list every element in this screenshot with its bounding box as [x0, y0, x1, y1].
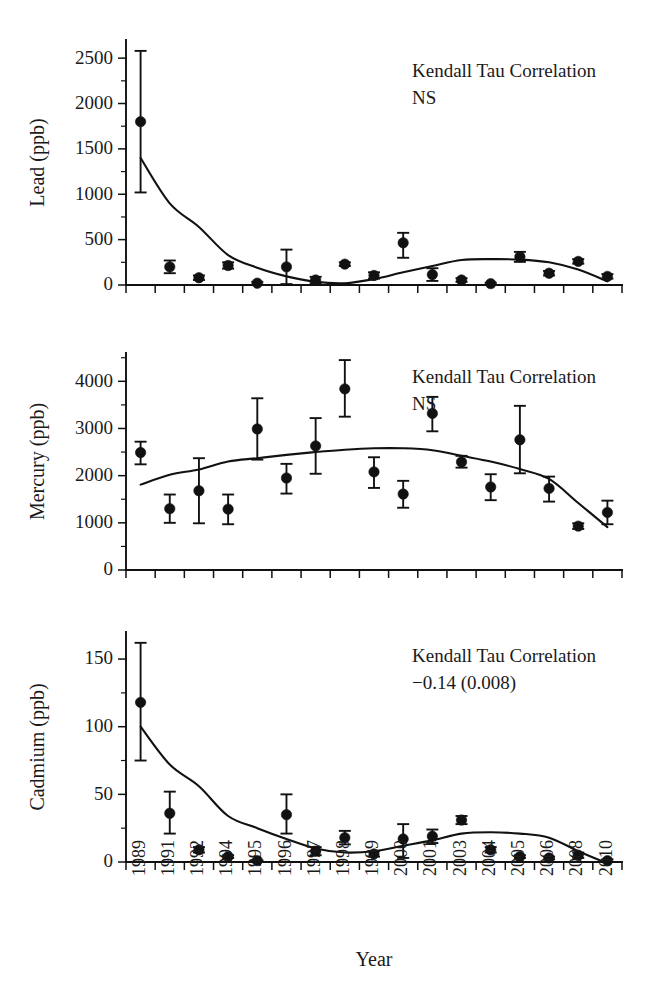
marker-filled-circle	[194, 486, 204, 496]
marker-filled-circle	[544, 483, 554, 493]
panel-lead: 05001000150020002500Lead (ppb)Kendall Ta…	[26, 40, 622, 294]
data-point-mercury	[601, 501, 613, 525]
xtick-label: 1996	[275, 840, 295, 876]
chart-canvas: 05001000150020002500Lead (ppb)Kendall Ta…	[0, 0, 666, 988]
data-point-lead	[485, 278, 497, 288]
marker-filled-circle	[194, 273, 204, 283]
marker-filled-circle	[165, 503, 175, 513]
marker-filled-circle	[602, 271, 612, 281]
marker-filled-circle	[135, 697, 145, 707]
annotation-line2-cadmium: −0.14 (0.008)	[412, 672, 516, 694]
data-point-mercury	[514, 406, 526, 473]
xtick-label: 1999	[362, 840, 382, 876]
marker-filled-circle	[135, 116, 145, 126]
data-point-lead	[397, 233, 409, 258]
xtick-label: 2010	[596, 840, 616, 876]
marker-filled-circle	[369, 270, 379, 280]
ytick-label-mercury: 3000	[75, 417, 113, 438]
data-point-lead	[426, 268, 438, 281]
annotation-line2-mercury: NS	[412, 393, 436, 414]
marker-filled-circle	[515, 435, 525, 445]
ytick-label-lead: 500	[85, 228, 114, 249]
marker-filled-circle	[544, 268, 554, 278]
data-point-mercury	[543, 477, 555, 502]
xtick-label: 1991	[158, 840, 178, 876]
marker-filled-circle	[223, 504, 233, 514]
marker-filled-circle	[427, 269, 437, 279]
annotation-line2-lead: NS	[412, 87, 436, 108]
marker-filled-circle	[486, 278, 496, 288]
data-point-lead	[193, 273, 205, 283]
ytick-label-cadmium: 50	[94, 783, 113, 804]
data-point-lead	[543, 268, 555, 278]
marker-filled-circle	[135, 447, 145, 457]
data-point-mercury	[222, 495, 234, 525]
data-point-cadmium	[456, 815, 468, 825]
xtick-label: 2008	[566, 840, 586, 876]
marker-filled-circle	[573, 256, 583, 266]
ytick-label-lead: 2000	[75, 92, 113, 113]
xtick-label: 2004	[479, 840, 499, 876]
data-point-mercury	[280, 464, 292, 494]
marker-filled-circle	[602, 507, 612, 517]
data-point-cadmium	[280, 794, 292, 833]
marker-filled-circle	[223, 260, 233, 270]
xtick-label: 2003	[450, 840, 470, 876]
xtick-label: 2005	[508, 840, 528, 876]
marker-filled-circle	[456, 275, 466, 285]
xtick-label: 2006	[537, 840, 557, 876]
ytick-label-lead: 0	[104, 273, 114, 294]
data-point-cadmium	[135, 643, 147, 761]
data-point-mercury	[310, 418, 322, 474]
marker-filled-circle	[486, 482, 496, 492]
marker-filled-circle	[456, 457, 466, 467]
xtick-label: 1998	[333, 840, 353, 876]
data-point-lead	[222, 260, 234, 270]
data-point-lead	[164, 261, 176, 274]
data-point-mercury	[397, 481, 409, 508]
axis-spines-cadmium	[126, 632, 622, 862]
data-point-mercury	[339, 360, 351, 417]
data-point-lead	[456, 275, 468, 285]
marker-filled-circle	[310, 441, 320, 451]
ytick-label-mercury: 4000	[75, 370, 113, 391]
marker-filled-circle	[252, 424, 262, 434]
marker-filled-circle	[398, 489, 408, 499]
data-point-mercury	[164, 495, 176, 523]
ytick-label-mercury: 2000	[75, 464, 113, 485]
data-point-mercury	[485, 474, 497, 500]
ytick-label-lead: 1000	[75, 183, 113, 204]
data-point-mercury	[135, 442, 147, 465]
xtick-label: 1997	[304, 840, 324, 876]
data-point-mercury	[572, 521, 584, 531]
xaxis-title: Year	[356, 948, 393, 970]
xtick-label: 2000	[391, 840, 411, 876]
marker-filled-circle	[398, 238, 408, 248]
marker-filled-circle	[281, 809, 291, 819]
ytick-label-cadmium: 0	[104, 850, 114, 871]
annotation-line1-mercury: Kendall Tau Correlation	[412, 366, 597, 387]
ytick-label-lead: 1500	[75, 137, 113, 158]
panel-cadmium: 050100150Cadmium (ppb)Kendall Tau Correl…	[26, 632, 622, 871]
ytick-label-mercury: 0	[104, 558, 114, 579]
marker-filled-circle	[573, 521, 583, 531]
marker-filled-circle	[340, 259, 350, 269]
annotation-line1-lead: Kendall Tau Correlation	[412, 60, 597, 81]
yaxis-title-mercury: Mercury (ppb)	[26, 403, 49, 520]
data-point-mercury	[368, 457, 380, 488]
annotation-line1-cadmium: Kendall Tau Correlation	[412, 645, 597, 666]
data-point-lead	[572, 256, 584, 266]
xtick-label: 1995	[245, 840, 265, 876]
xtick-label: 1989	[129, 840, 149, 876]
marker-filled-circle	[369, 467, 379, 477]
marker-filled-circle	[310, 275, 320, 285]
ytick-label-lead: 2500	[75, 47, 113, 68]
data-point-lead	[251, 278, 263, 288]
marker-filled-circle	[281, 262, 291, 272]
marker-filled-circle	[427, 831, 437, 841]
marker-filled-circle	[252, 278, 262, 288]
xtick-label: 1994	[216, 840, 236, 876]
data-point-lead	[280, 250, 292, 284]
data-point-cadmium	[164, 792, 176, 834]
xtick-label: 2001	[420, 840, 440, 876]
